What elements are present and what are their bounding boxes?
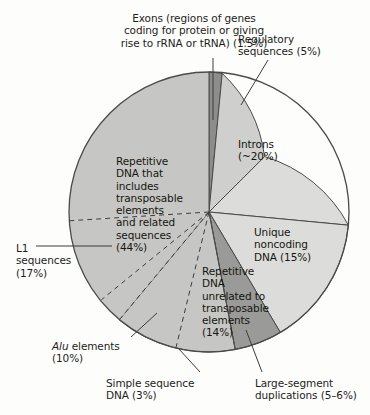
label-large-segment-duplications: Large-segment duplications (5–6%) [255, 377, 370, 402]
label-repetitive-dna-transposable-44: Repetitive DNA that includes transposabl… [116, 155, 202, 253]
label-alu-elements: Alu elements (10%) [52, 340, 162, 365]
label-unique-noncoding-dna: Unique noncoding DNA (15%) [254, 226, 340, 263]
label-alu-italic-prefix: Alu [52, 340, 68, 352]
leader-regulatory [241, 60, 268, 105]
label-simple-sequence-dna: Simple sequence DNA (3%) [106, 377, 211, 402]
label-repetitive-dna-unrelated-14: Repetitive DNA unrelated to transposable… [202, 265, 268, 339]
label-l1-sequences: L1 sequences (17%) [16, 242, 96, 279]
label-introns: Introns (~20%) [238, 138, 318, 163]
label-regulatory-sequences: Regulatory sequences (5%) [238, 33, 348, 58]
pie-chart-figure: Exons (regions of genes coding for prote… [0, 0, 370, 415]
